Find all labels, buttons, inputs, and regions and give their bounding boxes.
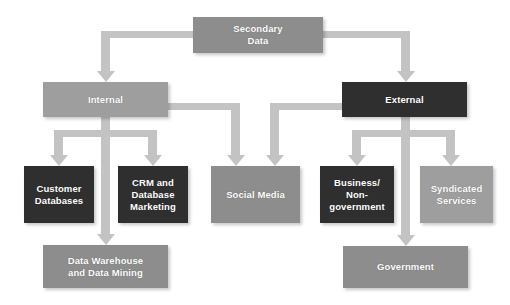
edge-internal-bus <box>54 130 157 137</box>
edge-root-to-external-horizontal <box>320 31 410 38</box>
arrowhead-internal <box>97 71 115 82</box>
arrowhead-external <box>397 71 415 82</box>
node-crm-database-marketing: CRM and Database Marketing <box>118 166 188 223</box>
edge-external-bus <box>352 130 455 137</box>
node-customer-databases: Customer Databases <box>24 166 94 223</box>
node-data-warehouse-label: Data Warehouse and Data Mining <box>68 255 143 279</box>
arrowhead-customer-databases <box>50 155 68 166</box>
node-external-label: External <box>385 94 423 106</box>
edge-internal-to-crm <box>148 130 157 157</box>
node-syndicated-services: Syndicated Services <box>420 166 493 223</box>
edge-root-to-internal-vertical <box>101 31 110 73</box>
node-business-nongovernment: Business/ Non- government <box>320 166 394 223</box>
arrowhead-business-nongovernment <box>348 155 366 166</box>
node-government-label: Government <box>377 261 434 273</box>
arrowhead-government <box>397 235 415 246</box>
arrowhead-social-media-right <box>266 155 284 166</box>
node-customer-databases-label: Customer Databases <box>35 183 83 207</box>
edge-internal-to-social-media-vertical <box>231 103 240 156</box>
edge-root-to-external-vertical <box>401 31 410 73</box>
node-social-media: Social Media <box>211 166 300 223</box>
node-social-media-label: Social Media <box>226 189 285 201</box>
edge-external-to-business <box>352 130 361 157</box>
edge-external-to-syndicated <box>446 130 455 157</box>
node-syndicated-services-label: Syndicated Services <box>431 183 483 207</box>
secondary-data-hierarchy-diagram: Secondary Data Internal External Custome… <box>0 0 510 305</box>
edge-external-to-social-media-horizontal <box>270 103 344 110</box>
node-secondary-data: Secondary Data <box>193 17 323 53</box>
arrowhead-data-warehouse <box>97 234 115 245</box>
node-government: Government <box>343 246 468 288</box>
edge-internal-to-customer-databases <box>54 130 63 157</box>
node-crm-database-marketing-label: CRM and Database Marketing <box>130 177 176 213</box>
node-business-nongovernment-label: Business/ Non- government <box>329 177 384 213</box>
node-internal-label: Internal <box>88 94 123 106</box>
edge-external-to-social-media-vertical <box>270 103 279 156</box>
edge-internal-to-social-media-horizontal <box>166 103 240 110</box>
node-data-warehouse-and-data-mining: Data Warehouse and Data Mining <box>43 245 168 288</box>
edge-root-to-internal-horizontal <box>101 31 196 38</box>
arrowhead-social-media-left <box>227 155 245 166</box>
arrowhead-syndicated-services <box>442 155 460 166</box>
node-external: External <box>342 82 467 117</box>
node-internal: Internal <box>43 82 168 117</box>
arrowhead-crm <box>144 155 162 166</box>
node-secondary-data-label: Secondary Data <box>233 23 282 47</box>
